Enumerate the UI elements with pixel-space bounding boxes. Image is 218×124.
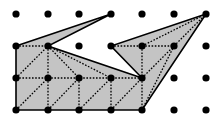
lattice-point xyxy=(107,106,114,113)
lattice-point xyxy=(202,10,209,17)
lattice-point xyxy=(75,42,82,49)
lattice-point xyxy=(44,106,51,113)
lattice-point xyxy=(202,106,209,113)
lattice-point xyxy=(44,42,51,49)
lattice-point xyxy=(138,74,145,81)
lattice-point xyxy=(12,42,19,49)
lattice-point xyxy=(138,10,145,17)
lattice-point xyxy=(107,74,114,81)
lattice-point xyxy=(107,10,114,17)
lattice-point xyxy=(170,42,177,49)
lattice-point xyxy=(12,74,19,81)
lattice-point xyxy=(138,106,145,113)
lattice-point xyxy=(75,10,82,17)
lattice-point xyxy=(202,74,209,81)
lattice-point xyxy=(170,106,177,113)
lattice-point xyxy=(170,74,177,81)
lattice-point xyxy=(12,106,19,113)
lattice-point xyxy=(107,42,114,49)
lattice-point xyxy=(75,106,82,113)
lattice-point xyxy=(44,74,51,81)
lattice-polygon-figure xyxy=(0,0,218,124)
lattice-point xyxy=(12,10,19,17)
lattice-point xyxy=(44,10,51,17)
lattice-point xyxy=(138,42,145,49)
lattice-diagram xyxy=(0,0,218,124)
lattice-point xyxy=(202,42,209,49)
lattice-point xyxy=(75,74,82,81)
lattice-point xyxy=(170,10,177,17)
